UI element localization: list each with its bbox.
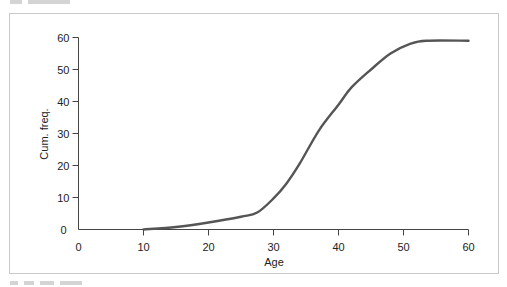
cumulative-frequency-chart: 0102030405060 0102030405060 Age Cum. fre…: [0, 0, 507, 287]
x-axis-ticks: 0102030405060: [75, 230, 474, 254]
ogive-curve: [144, 40, 469, 229]
y-tick-label: 10: [57, 192, 69, 204]
y-tick-label: 0: [60, 224, 66, 236]
y-tick-label: 40: [57, 96, 69, 108]
x-tick-label: 50: [397, 241, 409, 253]
y-tick-label: 60: [57, 32, 69, 44]
axes: [79, 38, 469, 230]
x-tick-label: 40: [332, 241, 344, 253]
y-axis-ticks: 0102030405060: [57, 32, 78, 236]
x-axis-title: Age: [264, 256, 284, 268]
x-tick-label: 60: [462, 241, 474, 253]
y-tick-label: 20: [57, 160, 69, 172]
y-tick-label: 50: [57, 64, 69, 76]
x-tick-label: 20: [202, 241, 214, 253]
cropped-text-below: [10, 281, 88, 287]
x-tick-label: 0: [75, 241, 81, 253]
x-tick-label: 10: [137, 241, 149, 253]
y-axis-title: Cum. freq.: [38, 108, 50, 159]
x-tick-label: 30: [267, 241, 279, 253]
y-tick-label: 30: [57, 128, 69, 140]
